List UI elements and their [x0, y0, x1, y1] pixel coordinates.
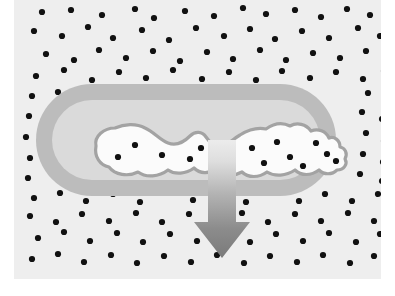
matrix-dot	[57, 190, 63, 196]
matrix-dot	[263, 11, 269, 17]
matrix-dot	[230, 56, 236, 62]
matrix-dot	[318, 14, 324, 20]
matrix-dot	[265, 219, 271, 225]
matrix-dot	[170, 67, 176, 73]
core-dot	[198, 145, 204, 151]
matrix-dot	[134, 260, 140, 266]
matrix-dot	[35, 235, 41, 241]
matrix-dot	[363, 48, 369, 54]
matrix-dot	[357, 171, 363, 177]
matrix-dot	[26, 113, 32, 119]
matrix-dot	[211, 13, 217, 19]
matrix-dot	[188, 259, 194, 265]
core-dot	[313, 140, 319, 146]
matrix-dot	[272, 36, 278, 42]
matrix-dot	[27, 213, 33, 219]
matrix-dot	[108, 252, 114, 258]
matrix-dot	[292, 7, 298, 13]
core-dot	[333, 158, 339, 164]
matrix-dot	[89, 77, 95, 83]
matrix-dot	[283, 57, 289, 63]
matrix-dot	[96, 47, 102, 53]
matrix-dot	[143, 75, 149, 81]
matrix-dot	[365, 90, 371, 96]
matrix-dot	[182, 8, 188, 14]
matrix-dot	[39, 9, 45, 15]
matrix-dot	[320, 252, 326, 258]
matrix-dot	[353, 239, 359, 245]
core-dot	[287, 154, 293, 160]
matrix-dot	[240, 5, 246, 11]
core-dot	[274, 139, 280, 145]
matrix-dot	[33, 73, 39, 79]
matrix-dot	[151, 15, 157, 21]
matrix-dot	[371, 253, 377, 259]
core-dot	[261, 160, 267, 166]
matrix-dot	[61, 67, 67, 73]
matrix-dot	[247, 26, 253, 32]
illustration-stage	[0, 0, 395, 296]
matrix-dot	[307, 75, 313, 81]
matrix-dot	[199, 76, 205, 82]
matrix-dot	[333, 69, 339, 75]
matrix-dot	[241, 260, 247, 266]
matrix-dot	[116, 69, 122, 75]
matrix-dot	[55, 251, 61, 257]
matrix-dot	[326, 230, 332, 236]
matrix-dot	[29, 93, 35, 99]
matrix-dot	[133, 210, 139, 216]
matrix-dot	[226, 69, 232, 75]
matrix-dot	[167, 231, 173, 237]
matrix-dot	[31, 28, 37, 34]
matrix-dot	[300, 238, 306, 244]
matrix-dot	[53, 219, 59, 225]
matrix-dot	[267, 253, 273, 259]
core-dot	[115, 154, 121, 160]
matrix-dot	[349, 198, 355, 204]
matrix-dot	[367, 12, 373, 18]
matrix-dot	[177, 58, 183, 64]
matrix-dot	[123, 55, 129, 61]
matrix-dot	[71, 57, 77, 63]
matrix-dot	[150, 48, 156, 54]
matrix-dot	[79, 211, 85, 217]
matrix-dot	[68, 7, 74, 13]
core-dot	[132, 142, 138, 148]
matrix-dot	[83, 198, 89, 204]
matrix-dot	[326, 35, 332, 41]
matrix-dot	[81, 259, 87, 265]
matrix-dot	[292, 211, 298, 217]
matrix-dot	[253, 77, 259, 83]
matrix-dot	[337, 55, 343, 61]
matrix-dot	[43, 51, 49, 57]
matrix-dot	[159, 219, 165, 225]
matrix-dot	[360, 76, 366, 82]
matrix-dot	[23, 134, 29, 140]
matrix-dot	[29, 256, 35, 262]
matrix-dot	[166, 37, 172, 43]
matrix-dot	[375, 191, 381, 197]
diagram-svg	[14, 0, 381, 279]
matrix-dot	[347, 260, 353, 266]
figure-content-box	[14, 0, 381, 279]
matrix-dot	[110, 35, 116, 41]
matrix-dot	[273, 231, 279, 237]
matrix-dot	[279, 68, 285, 74]
matrix-dot	[87, 238, 93, 244]
matrix-dot	[27, 155, 33, 161]
matrix-dot	[106, 218, 112, 224]
matrix-dot	[355, 25, 361, 31]
matrix-dot	[363, 130, 369, 136]
matrix-dot	[318, 218, 324, 224]
matrix-dot	[61, 229, 67, 235]
core-dot	[300, 163, 306, 169]
matrix-dot	[299, 28, 305, 34]
core-dot	[324, 151, 330, 157]
matrix-dot	[114, 230, 120, 236]
matrix-dot	[99, 12, 105, 18]
matrix-dot	[359, 109, 365, 115]
matrix-dot	[193, 25, 199, 31]
core-dot	[249, 145, 255, 151]
matrix-dot	[221, 33, 227, 39]
matrix-dot	[247, 239, 253, 245]
